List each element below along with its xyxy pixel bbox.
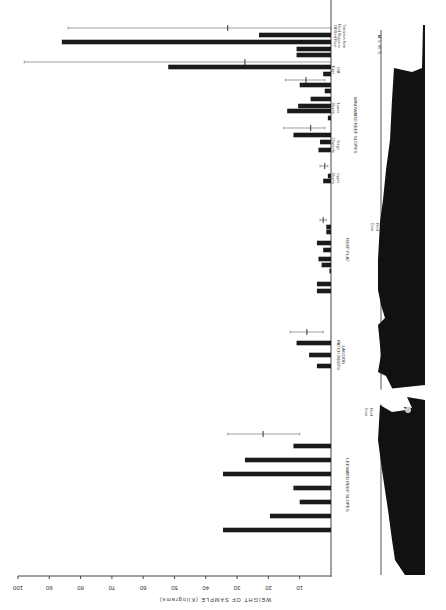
bar (323, 72, 331, 77)
bar (325, 89, 331, 94)
bar (317, 282, 331, 287)
label-transition: Reef Slopes to (337, 24, 341, 48)
bar (287, 109, 331, 114)
bar (328, 116, 331, 121)
label-mlws: M. L. W. S. (377, 35, 382, 55)
bar (259, 33, 331, 38)
bar (329, 269, 331, 274)
bar (270, 514, 331, 519)
bar (326, 230, 331, 235)
label-transition: Off-Reef Floor (333, 25, 337, 49)
label-lagoon-patch-reefs: LAGOON (341, 346, 346, 365)
bar (309, 353, 331, 358)
value-axis: 102030405060708090100WEIGHT OF SAMPLE (K… (12, 576, 331, 603)
label-upper-slopes: Upper (336, 173, 340, 184)
label-surge-channels: Channels (331, 137, 335, 152)
reef-sample-weight-chart: 102030405060708090100WEIGHT OF SAMPLE (K… (0, 0, 446, 610)
bar (293, 444, 331, 449)
bar (317, 241, 331, 246)
zone-labels: Transition fromReef Slopes toOff-Reef Fl… (331, 24, 382, 512)
bar (297, 53, 331, 58)
label-lower-slopes: Slopes (331, 103, 335, 114)
bar (326, 225, 331, 230)
bar (245, 458, 331, 463)
bar (297, 47, 331, 52)
tick-label: 70 (108, 585, 115, 591)
bar (322, 263, 331, 268)
bar (317, 364, 331, 369)
bar (223, 472, 331, 477)
label-windward-reef-slopes: WINDWARD REEF SLOPES (353, 97, 358, 154)
label-surge-channels: Surge (336, 140, 340, 150)
bar (300, 500, 331, 505)
label-lower-slopes: Lower (336, 103, 340, 114)
tick-label: 10 (296, 585, 303, 591)
label-reef-crest-windward: Crest (370, 223, 374, 232)
label-reef-flat: REEF FLAT (345, 238, 350, 262)
label-lagoon-patch-reefs: PATCH REEFS (336, 340, 341, 370)
tick-label: 90 (45, 585, 52, 591)
tick-label: 100 (12, 585, 23, 591)
bar (223, 528, 331, 533)
label-cliff-edge: Cliff (336, 67, 340, 73)
bar (323, 179, 331, 184)
bar (293, 486, 331, 491)
bar (168, 65, 331, 70)
bar (293, 133, 331, 138)
bars (24, 25, 331, 532)
tick-label: 50 (171, 585, 178, 591)
bar (318, 148, 331, 153)
bar (320, 140, 331, 145)
label-upper-slopes: Slopes (331, 173, 335, 184)
label-reef-crest-windward: Reef (375, 223, 379, 231)
tick-label: 80 (77, 585, 84, 591)
label-cliff-edge: Edge (331, 66, 335, 74)
bar (298, 104, 331, 109)
tick-label: 40 (202, 585, 209, 591)
label-transition: Transition from (342, 24, 346, 48)
tick-label: 60 (139, 585, 146, 591)
bar (300, 83, 331, 88)
axis-title: WEIGHT OF SAMPLE (Kilograms) (159, 597, 272, 603)
bar (328, 174, 331, 179)
bar (62, 40, 331, 45)
label-leeward-reef-slopes: LEEWARD REEF SLOPES (345, 458, 350, 511)
label-reef-crest-leeward: Crest (364, 408, 368, 417)
bar (297, 341, 331, 346)
bar (318, 257, 331, 262)
reef-profile (378, 25, 425, 575)
bar (323, 248, 331, 253)
label-reef-crest-leeward: Reef (369, 408, 373, 416)
bar (311, 97, 331, 102)
bar (317, 289, 331, 294)
tick-label: 30 (233, 585, 240, 591)
tick-label: 20 (264, 585, 271, 591)
